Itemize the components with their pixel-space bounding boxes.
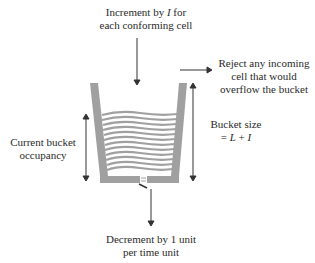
bucket-leak-hole [140, 176, 147, 183]
bucket-bottom [100, 176, 179, 183]
increment-label: Increment by I for each conforming cell [88, 6, 204, 32]
occupancy-label: Current bucket occupancy [8, 136, 78, 162]
leak-drip-mark [139, 184, 147, 188]
decrement-label: Decrement by 1 unit per time unit [93, 233, 209, 259]
reject-label: Reject any incoming cell that would over… [212, 57, 315, 96]
bucket-size-label: Bucket size = L + I [196, 118, 276, 144]
bucket-fluid [102, 112, 178, 170]
